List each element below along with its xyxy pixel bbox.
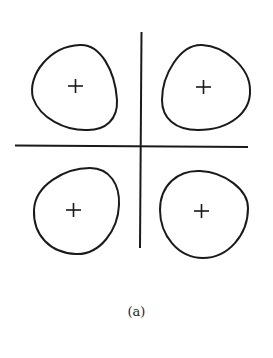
lobe-top-left <box>32 45 117 130</box>
plus-sign-top-left <box>68 79 83 93</box>
vertical-axis <box>140 32 142 248</box>
plus-sign-bottom-left <box>66 203 81 217</box>
figure-caption: (a) <box>0 304 273 319</box>
plus-sign-bottom-right <box>194 204 209 218</box>
lobe-bottom-left <box>34 168 119 254</box>
horizontal-axis <box>15 146 248 148</box>
lobe-bottom-right <box>160 171 248 258</box>
plus-sign-top-right <box>196 80 211 94</box>
